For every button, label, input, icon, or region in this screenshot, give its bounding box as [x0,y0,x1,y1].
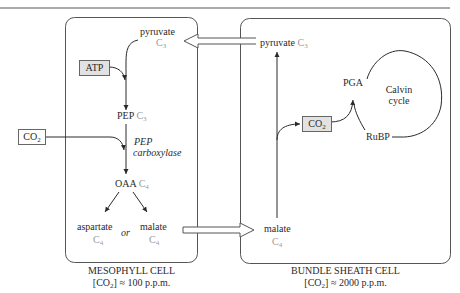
co2-input-arrow [45,137,124,150]
oaa-to-aspartate-arrow [105,192,119,212]
oaa-to-malate-arrow [133,192,147,212]
enzyme-label-line1: PEP [134,136,152,147]
bundle-pyruvate-label: pyruvate C3 [260,37,308,48]
calvin-cycle-label-1: Calvin [382,84,416,95]
bundle-co2-box: CO2 [302,116,332,132]
mesophyll-co2-concentration: [CO2] ≈ 100 p.p.m. [65,277,198,289]
mesophyll-pyruvate-carbon: C3 [156,37,166,48]
mesophyll-pyruvate-label: pyruvate [140,26,175,37]
pyruvate-transport-arrow [184,34,256,48]
mesophyll-malate-label: malate [140,221,167,232]
bundle-sheath-caption-title: BUNDLE SHEATH CELL [240,265,451,277]
aspartate-label: aspartate [77,221,113,232]
bundle-malate-carbon: C4 [272,236,282,247]
atp-arrow [109,67,125,80]
malate-transport-arrow [183,223,254,237]
pep-label: PEP C3 [117,110,147,121]
pyruvate-to-pep-arrow [126,40,138,110]
mesophyll-caption-title: MESOPHYLL CELL [65,265,198,277]
mesophyll-caption: MESOPHYLL CELL [CO2] ≈ 100 p.p.m. [65,265,198,289]
aspartate-carbon: C4 [93,234,103,245]
enzyme-label-line2: carboxylase [133,147,181,158]
bundle-malate-label: malate [264,223,291,234]
calvin-cycle-label-2: cycle [382,95,416,106]
rubp-label: RuBP [366,131,390,142]
oaa-label: OAA C4 [115,178,149,189]
co2-release-arrow [277,124,300,140]
bundle-sheath-caption: BUNDLE SHEATH CELL [CO2] ≈ 2000 p.p.m. [240,265,451,289]
atp-box: ATP [79,60,110,76]
rubp-to-pga-line [354,104,365,130]
pga-label: PGA [343,77,363,88]
mesophyll-malate-carbon: C4 [149,234,159,245]
or-label: or [121,227,130,238]
bundle-sheath-co2-concentration: [CO2] ≈ 2000 p.p.m. [240,277,451,289]
diagram-lines [0,0,460,293]
co2-to-pga-arrow [330,100,353,122]
mesophyll-co2-box: CO2 [18,129,46,145]
